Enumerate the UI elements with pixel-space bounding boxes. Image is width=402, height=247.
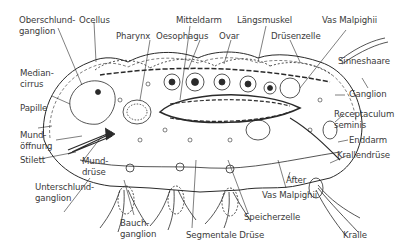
label-ganglion: Ganglion <box>349 89 387 100</box>
label-line: drüse <box>82 167 108 178</box>
label-unterschlundganglion: Unterschlund- ganglion <box>35 182 94 203</box>
label-line: Bauch- <box>120 218 156 229</box>
label-line: öffnung <box>20 141 52 152</box>
stylet <box>68 132 112 154</box>
label-after: After <box>286 175 306 186</box>
label-line: Mund- <box>20 130 52 141</box>
label-speicherzelle: Speicherzelle <box>244 212 300 223</box>
label-stilett: Stilett <box>20 155 45 166</box>
label-mitteldarm: Mitteldarm <box>176 15 222 26</box>
label-sinneshaare: Sinneshaare <box>338 56 390 67</box>
label-receptaculum-seminis: Receptaculum seminis <box>334 109 394 130</box>
label-segmentale-druese: Segmentale Drüse <box>186 230 264 241</box>
label-line: ganglion <box>120 229 156 240</box>
label-mediancirrus: Median- cirrus <box>20 68 54 89</box>
label-line: Receptaculum <box>334 109 394 120</box>
label-line: Oberschlund- <box>19 15 75 26</box>
label-munddruese: Mund- drüse <box>82 156 108 177</box>
label-vas-malpighii-bottom: Vas Malpighii <box>262 190 317 201</box>
label-krallendruese: Krallendrüse <box>337 150 390 161</box>
label-enddarm: Enddarm <box>349 135 387 146</box>
label-oberschlundganglion: Oberschlund- ganglion <box>19 15 75 36</box>
dorsal-plate <box>215 59 270 66</box>
label-vas-malpighii-top: Vas Malpighii <box>322 15 377 26</box>
label-oesophagus: Oesophagus <box>156 31 208 42</box>
label-line: Median- <box>20 68 54 79</box>
dorsal-plate <box>270 63 332 75</box>
label-papille: Papille <box>20 103 47 114</box>
ganglion-node <box>126 164 134 172</box>
label-line: seminis <box>334 120 394 131</box>
label-line: Mund- <box>82 156 108 167</box>
label-bauchganglion: Bauch- ganglion <box>120 218 156 239</box>
label-ocellus: Ocellus <box>79 15 110 26</box>
label-laengsmuskel: Längsmuskel <box>237 15 292 26</box>
tardigrade-anatomy-diagram: Oberschlund- ganglion Ocellus Pharynx Mi… <box>0 0 402 247</box>
label-line: cirrus <box>20 79 54 90</box>
label-druesenzelle: Drüsenzelle <box>271 31 321 42</box>
storage-cell <box>246 120 270 140</box>
gland-cell <box>280 78 300 98</box>
ocellus-eye <box>96 90 101 95</box>
midgut <box>160 95 300 123</box>
hindgut <box>290 118 340 160</box>
label-line: Unterschlund- <box>35 182 94 193</box>
label-ovar: Ovar <box>219 31 239 42</box>
supraoesophageal-ganglion <box>70 81 115 124</box>
label-pharynx: Pharynx <box>116 31 150 42</box>
label-line: ganglion <box>35 193 94 204</box>
label-mundoeffnung: Mund- öffnung <box>20 130 52 151</box>
ventral-nerve-cord <box>80 152 340 168</box>
label-kralle: Kralle <box>343 230 367 241</box>
label-line: ganglion <box>19 26 75 37</box>
